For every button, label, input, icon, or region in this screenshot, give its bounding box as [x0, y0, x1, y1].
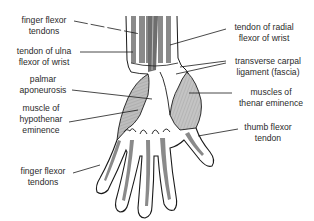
label-line: aponeurosis: [14, 85, 72, 96]
label-line: tendon of radial: [226, 22, 302, 33]
label-line: flexor of wrist: [226, 33, 302, 44]
label-line: thumb flexor: [238, 122, 298, 133]
label-tendon-radial-flexor: tendon of radial flexor of wrist: [226, 22, 302, 44]
wrist-tendon: [158, 16, 163, 63]
label-tendon-ulna-flexor: tendon of ulna flexor of wrist: [10, 46, 78, 68]
label-transverse-carpal-ligament: transverse carpal ligament (fascia): [226, 56, 310, 78]
wrist-tendon: [131, 16, 136, 63]
label-line: tendon of ulna: [10, 46, 78, 57]
label-line: transverse carpal: [226, 56, 310, 67]
label-line: finger flexor: [15, 15, 73, 26]
label-finger-flexor-tendons-bottom: finger flexor tendons: [14, 166, 72, 188]
label-line: tendons: [15, 26, 73, 37]
label-line: finger flexor: [14, 166, 72, 177]
wrist-tendon: [139, 16, 145, 63]
label-line: flexor of wrist: [10, 57, 78, 68]
finger-web-lines: [124, 129, 170, 134]
leader-radial-flexor: [170, 29, 226, 45]
label-line: tendon: [238, 133, 298, 144]
label-line: thenar eminence: [232, 98, 310, 109]
finger-tendon-middle: [145, 140, 150, 206]
label-finger-flexor-tendons-top: finger flexor tendons: [15, 15, 73, 37]
wrist-tendons: [131, 16, 171, 72]
label-line: hypothenar: [14, 114, 68, 125]
label-muscles-thenar: muscles of thenar eminence: [232, 87, 310, 109]
label-line: muscle of: [14, 103, 68, 114]
label-line: ligament (fascia): [226, 67, 310, 78]
finger-tendon-ring: [122, 140, 134, 201]
label-line: palmar: [14, 74, 72, 85]
label-thumb-flexor-tendon: thumb flexor tendon: [238, 122, 298, 144]
leader-carpal-ligament-1: [180, 61, 226, 67]
leader-thumb-flexor: [198, 129, 238, 136]
hand-outline: [96, 128, 213, 218]
thenar-muscle: [170, 72, 201, 130]
label-line: muscles of: [232, 87, 310, 98]
label-line: tendons: [14, 177, 72, 188]
label-palmar-aponeurosis: palmar aponeurosis: [14, 74, 72, 96]
label-line: eminence: [14, 125, 68, 136]
finger-tendon-little: [104, 140, 121, 181]
hand-anatomy-diagram: finger flexor tendons tendon of ulna fle…: [0, 0, 314, 221]
wrist-tendon: [166, 16, 171, 63]
leader-finger-flexor-bottom: [73, 165, 100, 173]
label-muscle-hypothenar: muscle of hypothenar eminence: [14, 103, 68, 136]
leader-finger-flexor-top: [74, 21, 140, 34]
